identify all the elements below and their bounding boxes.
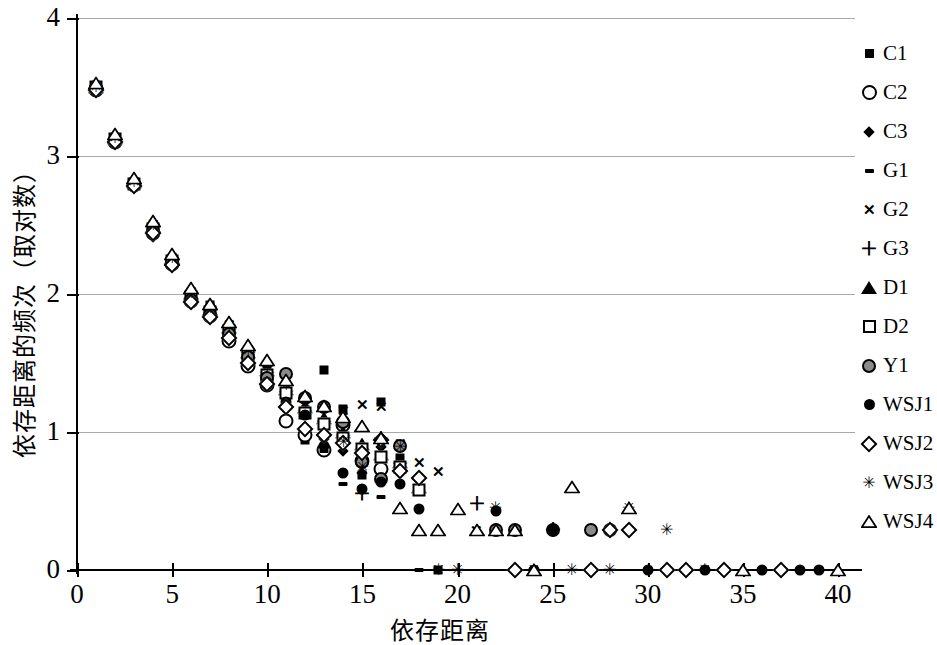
data-point bbox=[392, 501, 408, 514]
gridline bbox=[77, 432, 855, 433]
legend: C1C2C3G1✕G2＋G3D1D2Y1WSJ1WSJ2✳WSJ3WSJ4 bbox=[858, 34, 937, 541]
open-diamond-icon bbox=[858, 434, 880, 454]
data-point bbox=[621, 501, 637, 514]
dash-icon bbox=[858, 161, 880, 181]
legend-item-wsj4[interactable]: WSJ4 bbox=[858, 502, 937, 541]
data-point bbox=[316, 399, 332, 412]
data-point bbox=[320, 365, 329, 374]
data-point bbox=[202, 297, 218, 310]
legend-label: C1 bbox=[883, 41, 908, 66]
data-point bbox=[415, 568, 424, 572]
data-point bbox=[794, 565, 805, 576]
legend-item-g2[interactable]: ✕G2 bbox=[858, 190, 937, 229]
data-point bbox=[373, 431, 389, 444]
asterisk-icon: ✳ bbox=[858, 473, 880, 493]
legend-item-wsj1[interactable]: WSJ1 bbox=[858, 385, 937, 424]
filled-circle-icon bbox=[858, 395, 880, 415]
data-point bbox=[357, 483, 368, 494]
filled-square-icon bbox=[858, 44, 880, 64]
data-point bbox=[338, 468, 349, 479]
legend-item-y1[interactable]: Y1 bbox=[858, 346, 937, 385]
data-point bbox=[126, 172, 142, 185]
y-tick-label: 0 bbox=[20, 556, 60, 583]
legend-label: G2 bbox=[883, 197, 909, 222]
legend-label: Y1 bbox=[883, 353, 909, 378]
data-point: ＋ bbox=[468, 495, 486, 513]
data-point: ✳ bbox=[356, 459, 369, 475]
filled-triangle-icon bbox=[858, 278, 880, 298]
data-point: ✕ bbox=[413, 455, 426, 470]
x-tick-label: 15 bbox=[332, 581, 392, 608]
data-point bbox=[414, 504, 425, 515]
x-cross-icon: ✕ bbox=[858, 200, 880, 220]
data-point bbox=[584, 523, 598, 537]
data-point bbox=[279, 413, 294, 428]
legend-label: WSJ3 bbox=[883, 470, 933, 495]
legend-item-g1[interactable]: G1 bbox=[858, 151, 937, 190]
data-point: ✳ bbox=[565, 562, 578, 578]
data-point: ✳ bbox=[603, 562, 616, 578]
data-point bbox=[735, 564, 751, 577]
data-point bbox=[240, 339, 256, 352]
y-axis-line bbox=[76, 14, 78, 574]
data-point bbox=[183, 282, 199, 295]
data-point bbox=[297, 390, 313, 403]
chart-canvas: 01234 0510152025303540 ✕✕✕✕✕✕✕✕✕✕✕✕✕✕✕✕✕… bbox=[0, 0, 937, 645]
data-point bbox=[450, 503, 466, 516]
data-point bbox=[259, 354, 275, 367]
x-tick-label: 30 bbox=[618, 581, 678, 608]
x-axis-title: 依存距离 bbox=[0, 611, 880, 645]
data-point bbox=[411, 523, 427, 536]
legend-item-c3[interactable]: C3 bbox=[858, 112, 937, 151]
data-point bbox=[564, 481, 580, 494]
open-triangle-icon bbox=[858, 512, 880, 532]
data-point: ✳ bbox=[660, 522, 673, 538]
open-square-icon bbox=[858, 317, 880, 337]
legend-item-d1[interactable]: D1 bbox=[858, 268, 937, 307]
data-point bbox=[756, 565, 767, 576]
data-point: ✳ bbox=[451, 562, 464, 578]
data-point bbox=[813, 565, 824, 576]
open-circle-icon bbox=[858, 83, 880, 103]
data-point: ✕ bbox=[375, 398, 388, 413]
data-point bbox=[547, 524, 558, 535]
data-point bbox=[642, 565, 653, 576]
data-point bbox=[830, 564, 846, 577]
plus-icon: ＋ bbox=[858, 239, 880, 259]
legend-label: G1 bbox=[883, 158, 909, 183]
data-point bbox=[335, 410, 351, 423]
data-point: ✳ bbox=[698, 562, 711, 578]
x-tick-label: 0 bbox=[47, 581, 107, 608]
data-point: ✳ bbox=[337, 434, 350, 450]
data-point bbox=[377, 495, 386, 499]
data-point bbox=[164, 247, 180, 260]
legend-item-g3[interactable]: ＋G3 bbox=[858, 229, 937, 268]
data-point bbox=[278, 373, 294, 386]
gridline bbox=[77, 156, 855, 157]
legend-item-c2[interactable]: C2 bbox=[858, 73, 937, 112]
data-point bbox=[376, 476, 387, 487]
data-point: ✳ bbox=[432, 562, 445, 578]
data-point bbox=[507, 523, 523, 536]
filled-diamond-icon bbox=[858, 122, 880, 142]
x-tick-label: 40 bbox=[808, 581, 868, 608]
data-point bbox=[395, 479, 406, 490]
legend-item-wsj2[interactable]: WSJ2 bbox=[858, 424, 937, 463]
data-point bbox=[375, 450, 388, 463]
data-point bbox=[88, 76, 104, 89]
data-point bbox=[488, 523, 504, 536]
x-tick-label: 5 bbox=[142, 581, 202, 608]
legend-label: D2 bbox=[883, 314, 909, 339]
data-point bbox=[354, 420, 370, 433]
legend-label: C3 bbox=[883, 119, 908, 144]
legend-item-d2[interactable]: D2 bbox=[858, 307, 937, 346]
x-tick-label: 20 bbox=[428, 581, 488, 608]
x-tick-label: 25 bbox=[523, 581, 583, 608]
legend-item-c1[interactable]: C1 bbox=[858, 34, 937, 73]
legend-item-wsj3[interactable]: ✳WSJ3 bbox=[858, 463, 937, 502]
data-point bbox=[526, 564, 542, 577]
data-point bbox=[339, 482, 348, 486]
legend-label: WSJ2 bbox=[883, 431, 933, 456]
legend-label: G3 bbox=[883, 236, 909, 261]
data-point bbox=[430, 523, 446, 536]
